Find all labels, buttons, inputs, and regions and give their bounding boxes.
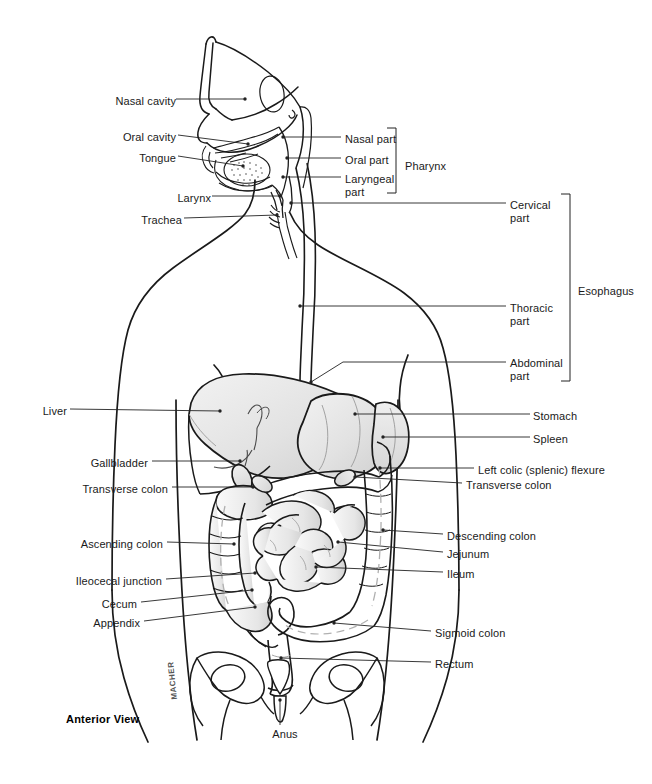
sigmoid-taenia bbox=[284, 620, 368, 634]
leader-trachea bbox=[184, 215, 277, 218]
leader-cervical-part-endpoint bbox=[289, 201, 292, 204]
small-intestine bbox=[253, 491, 365, 592]
leader-liver-endpoint bbox=[218, 409, 221, 412]
leader-sigmoid-colon bbox=[334, 623, 431, 631]
leader-rectum-endpoint bbox=[279, 656, 282, 659]
leader-abdominal-part-endpoint bbox=[309, 380, 312, 383]
label-oral-cavity: Oral cavity bbox=[114, 131, 176, 144]
label-tongue: Tongue bbox=[130, 152, 176, 165]
cecum-and-appendix bbox=[226, 602, 278, 647]
leader-cecum bbox=[141, 590, 252, 602]
leader-nasal-cavity-endpoint bbox=[243, 97, 246, 100]
descending-colon bbox=[350, 456, 392, 626]
label-pharynx-group: Pharynx bbox=[405, 160, 446, 173]
leader-ileocecal-junction-endpoint bbox=[253, 571, 256, 574]
label-trachea: Trachea bbox=[130, 214, 182, 227]
leader-gallbladder-endpoint bbox=[238, 459, 241, 462]
leader-descending-colon-endpoint bbox=[381, 528, 384, 531]
label-transverse-colon-r: Transverse colon bbox=[466, 479, 570, 492]
label-appendix: Appendix bbox=[84, 617, 140, 630]
label-rectum: Rectum bbox=[435, 658, 505, 671]
leader-laryngeal-part-endpoint bbox=[281, 175, 284, 178]
label-left-colic-flexure: Left colic (splenic) flexure bbox=[478, 464, 648, 477]
leader-ascending-colon bbox=[167, 542, 234, 544]
leader-larynx-endpoint bbox=[278, 194, 281, 197]
leader-nasal-part-endpoint bbox=[281, 135, 284, 138]
label-laryngeal-part: Laryngeal part bbox=[345, 173, 415, 198]
leader-anus-endpoint bbox=[278, 698, 281, 701]
leader-ileum-endpoint bbox=[314, 565, 317, 568]
leader-sigmoid-colon-endpoint bbox=[332, 621, 335, 624]
label-nasal-part: Nasal part bbox=[345, 133, 415, 146]
label-thoracic-part: Thoracic part bbox=[510, 302, 580, 327]
anterior-view-label: Anterior View bbox=[66, 713, 139, 725]
leader-trachea-endpoint bbox=[275, 213, 278, 216]
leader-spleen-endpoint bbox=[381, 435, 384, 438]
leader-oral-cavity-endpoint bbox=[246, 142, 249, 145]
sigmoid-colon bbox=[268, 597, 374, 641]
label-liver: Liver bbox=[33, 405, 67, 418]
anatomy-figure: Nasal cavityOral cavityTongueLarynxTrach… bbox=[0, 0, 652, 784]
label-jejunum: Jejunum bbox=[447, 548, 517, 561]
label-larynx: Larynx bbox=[165, 192, 211, 205]
label-cecum: Cecum bbox=[93, 598, 137, 611]
label-transverse-colon-l: Transverse colon bbox=[70, 483, 168, 496]
label-descending-colon: Descending colon bbox=[447, 530, 551, 543]
label-cervical-part: Cervical part bbox=[510, 199, 580, 224]
label-abdominal-part: Abdominal part bbox=[510, 357, 584, 382]
leader-cecum-endpoint bbox=[250, 588, 253, 591]
leader-stomach-endpoint bbox=[353, 412, 356, 415]
leader-left-colic-endpoint bbox=[378, 466, 381, 469]
leader-transverse-colon-r bbox=[355, 477, 462, 483]
label-ascending-colon: Ascending colon bbox=[63, 538, 163, 551]
leader-thoracic-part-endpoint bbox=[298, 304, 301, 307]
label-stomach: Stomach bbox=[533, 410, 603, 423]
leader-abdominal-part bbox=[311, 362, 506, 382]
pharynx-and-larynx bbox=[271, 127, 292, 218]
label-nasal-cavity: Nasal cavity bbox=[104, 95, 176, 108]
label-spleen: Spleen bbox=[533, 433, 603, 446]
label-ileum: Ileum bbox=[447, 568, 517, 581]
leader-rectum bbox=[281, 658, 431, 662]
label-sigmoid-colon: Sigmoid colon bbox=[435, 627, 529, 640]
label-gallbladder: Gallbladder bbox=[80, 457, 148, 470]
oral-cavity-and-tongue bbox=[202, 127, 279, 191]
leader-appendix-endpoint bbox=[253, 605, 256, 608]
anatomy-illustration bbox=[0, 0, 652, 784]
label-anus: Anus bbox=[265, 728, 305, 741]
esophagus bbox=[296, 163, 315, 401]
leader-transverse-colon-r-endpoint bbox=[353, 475, 356, 478]
label-esophagus-group: Esophagus bbox=[578, 285, 634, 298]
label-ileocecal-junction: Ileocecal junction bbox=[54, 575, 162, 588]
leader-ascending-colon-endpoint bbox=[232, 542, 235, 545]
leader-tongue-endpoint bbox=[241, 164, 244, 167]
leader-transverse-colon-l-endpoint bbox=[251, 485, 254, 488]
leader-oral-part-endpoint bbox=[285, 156, 288, 159]
leader-oral-cavity bbox=[178, 135, 248, 144]
leader-jejunum-endpoint bbox=[336, 540, 339, 543]
